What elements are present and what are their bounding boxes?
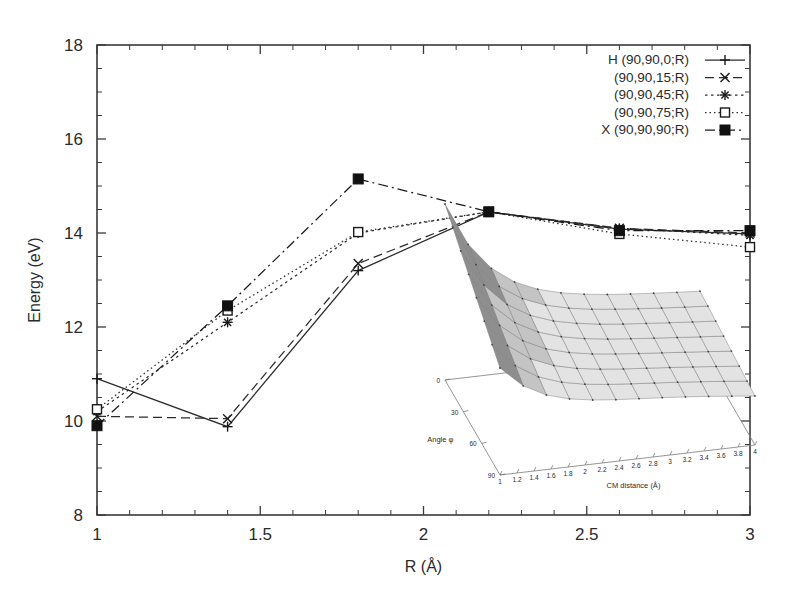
inset-mesh-node xyxy=(622,323,624,325)
inset-mesh-node xyxy=(560,292,562,294)
inset-mesh-node xyxy=(499,324,501,326)
inset-mesh-node xyxy=(676,291,678,293)
legend-label-1: (90,90,15;R) xyxy=(614,70,689,85)
y-tick-label: 18 xyxy=(64,36,83,55)
inset-x-tick-label: 3.8 xyxy=(733,450,742,457)
inset-mesh-node xyxy=(553,365,555,367)
inset-mesh-node xyxy=(545,348,547,350)
inset-x-tick-label: 3.6 xyxy=(716,452,725,459)
filled-square-marker xyxy=(745,226,755,236)
x-tick-label: 1 xyxy=(92,525,101,544)
inset-mesh-node xyxy=(731,350,733,352)
legend-label-4: X (90,90,90;R) xyxy=(601,122,689,137)
inset-mesh-node xyxy=(638,398,640,400)
inset-mesh-node xyxy=(468,273,470,275)
inset-x-tick xyxy=(755,441,757,445)
inset-mesh-node xyxy=(615,353,617,355)
filled-square-marker xyxy=(614,226,624,236)
inset-mesh-node xyxy=(676,337,678,339)
legend-label-2: (90,90,45;R) xyxy=(614,87,689,102)
inset-mesh-node xyxy=(507,345,509,347)
inset-mesh-node xyxy=(491,344,493,346)
inset-mesh-node xyxy=(592,399,594,401)
inset-mesh-node xyxy=(623,368,625,370)
inset-mesh-node xyxy=(707,305,709,307)
legend-label-0: H (90,90,0;R) xyxy=(608,52,689,67)
inset-mesh-node xyxy=(546,394,548,396)
inset-mesh-node xyxy=(700,381,702,383)
y-axis-title: Energy (eV) xyxy=(26,237,43,322)
x-tick-label: 2 xyxy=(419,525,428,544)
inset-mesh-node xyxy=(654,382,656,384)
inset-mesh-node xyxy=(669,322,671,324)
data-point-star xyxy=(720,90,730,100)
inset-y-tick-label: 30 xyxy=(451,409,459,416)
inset-mesh-node xyxy=(537,288,539,290)
inset-mesh-node xyxy=(645,323,647,325)
inset-mesh-node xyxy=(568,307,570,309)
inset-mesh-node xyxy=(491,267,493,269)
data-point-filled-square xyxy=(484,207,494,217)
inset-x-axis-title: CM distance (Å) xyxy=(607,481,661,490)
inset-x-tick-label: 1 xyxy=(498,478,502,485)
inset-mesh-node xyxy=(584,338,586,340)
open-square-marker xyxy=(721,108,730,117)
open-square-marker xyxy=(93,405,102,414)
inset-y-axis-title: Angle φ xyxy=(427,435,453,444)
inset-x-tick-label: 2.2 xyxy=(597,466,606,473)
inset-mesh-node xyxy=(661,352,663,354)
x-tick-label: 1.5 xyxy=(248,525,272,544)
inset-mesh-node xyxy=(522,298,524,300)
inset-mesh-node xyxy=(491,304,493,306)
inset-mesh-node xyxy=(715,320,717,322)
data-point-filled-square xyxy=(92,421,102,431)
inset-surface-cell xyxy=(445,204,476,265)
inset-mesh-node xyxy=(723,380,725,382)
inset-x-tick-label: 3.4 xyxy=(699,454,708,461)
chart-canvas: 11.522.53R (Å)81012141618Energy (eV)H (9… xyxy=(0,0,795,589)
inset-mesh-node xyxy=(708,396,710,398)
filled-square-marker xyxy=(353,174,363,184)
inset-mesh-node xyxy=(669,367,671,369)
inset-mesh-node xyxy=(599,368,601,370)
inset-mesh-node xyxy=(483,284,485,286)
y-tick-label: 10 xyxy=(64,412,83,431)
inset-x-tick-label: 3.2 xyxy=(682,456,691,463)
inset-mesh-node xyxy=(661,397,663,399)
inset-mesh-node xyxy=(499,367,501,369)
inset-mesh-node xyxy=(444,203,446,205)
data-point-filled-square xyxy=(353,174,363,184)
inset-mesh-node xyxy=(637,308,639,310)
inset-x-tick-label: 2.8 xyxy=(648,460,657,467)
inset-mesh-node xyxy=(583,293,585,295)
inset-x-tick-label: 1.8 xyxy=(563,470,572,477)
inset-mesh-node xyxy=(731,395,733,397)
data-point-plus xyxy=(92,374,102,384)
inset-mesh-node xyxy=(467,244,469,246)
inset-mesh-node xyxy=(677,381,679,383)
inset-y-tick xyxy=(482,442,487,443)
inset-mesh-node xyxy=(746,380,748,382)
inset-mesh-node xyxy=(661,307,663,309)
x-tick-label: 3 xyxy=(745,525,754,544)
inset-mesh-node xyxy=(699,290,701,292)
inset-mesh-node xyxy=(522,340,524,342)
data-point-filled-square xyxy=(614,226,624,236)
inset-mesh-node xyxy=(514,322,516,324)
inset-mesh-node xyxy=(630,338,632,340)
inset-mesh-node xyxy=(545,304,547,306)
inset-mesh-node xyxy=(584,383,586,385)
inset-mesh-node xyxy=(707,351,709,353)
inset-mesh-node xyxy=(614,308,616,310)
inset-mesh-node xyxy=(700,336,702,338)
data-point-filled-square xyxy=(720,125,730,135)
inset-mesh-node xyxy=(615,399,617,401)
data-point-filled-square xyxy=(745,226,755,236)
inset-mesh-node xyxy=(599,323,601,325)
inset-x-tick-label: 1.2 xyxy=(512,476,521,483)
inset-mesh-node xyxy=(476,297,478,299)
inset-mesh-node xyxy=(630,293,632,295)
legend-label-3: (90,90,75;R) xyxy=(614,105,689,120)
legend: H (90,90,0;R)(90,90,15;R)(90,90,45;R)(90… xyxy=(601,52,745,137)
inset-mesh-node xyxy=(522,385,524,387)
